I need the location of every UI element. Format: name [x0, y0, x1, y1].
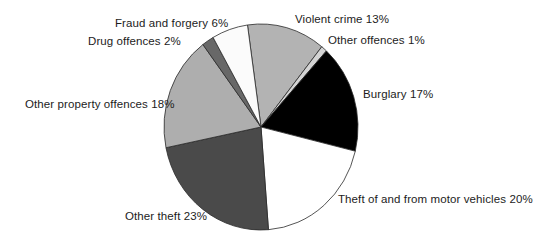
slice-label-violent-crime: Violent crime 13% [295, 12, 389, 26]
slice-label-drug-offences: Drug offences 2% [88, 34, 181, 48]
crime-pie-chart-figure: Violent crime 13% Other offences 1% Burg… [0, 0, 533, 239]
slice-label-burglary: Burglary 17% [363, 87, 433, 101]
slice-label-other-offences: Other offences 1% [328, 33, 425, 47]
pie-slices-group [164, 24, 358, 230]
slice-label-theft-motor-vehicles: Theft of and from motor vehicles 20% [338, 192, 533, 206]
slice-label-fraud-forgery: Fraud and forgery 6% [115, 16, 228, 30]
slice-label-other-theft: Other theft 23% [125, 209, 207, 223]
slice-label-other-property: Other property offences 18% [25, 97, 175, 111]
